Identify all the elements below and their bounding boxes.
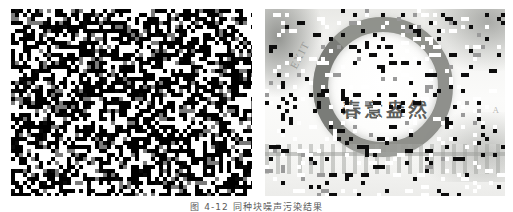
- figure-caption: 图 4-12 同种块噪声污染结果: [0, 200, 513, 212]
- dense-noise-canvas: [11, 9, 252, 196]
- figure-root: EXIT 春意盎然 A 图 4-12 同种块噪声污染结果: [0, 0, 513, 212]
- figure-panel-row: EXIT 春意盎然 A: [0, 0, 513, 196]
- panel-noisy-dense-image: [11, 9, 252, 196]
- panel-noisy-sparse-image: EXIT 春意盎然 A: [265, 9, 505, 196]
- sparse-noise-canvas: [265, 9, 505, 196]
